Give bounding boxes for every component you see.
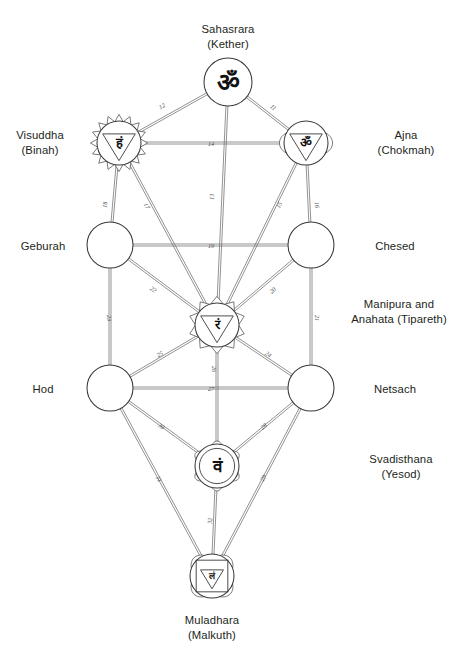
path-number-24: 24 [264,349,273,358]
lotus-petal [141,139,148,147]
path-12 [135,91,210,134]
om-bija-syllable: ॐ [300,135,312,150]
path-number-11: 11 [269,103,278,112]
node-netsach[interactable] [288,365,334,411]
node-label-geburah: Geburah [6,239,80,254]
path-number-12: 12 [157,101,166,110]
ram-bija-syllable: रं [214,317,221,332]
path-16 [306,162,311,225]
path-number-16: 16 [314,202,321,209]
node-chesed[interactable] [288,222,334,268]
path-26 [216,344,218,447]
path-24 [232,335,295,378]
diagram-canvas: ॐहंॐरंवंलं 11121314151617181920212223242… [0,0,454,662]
node-label-tipareth: Manipura and Anahata (Tipareth) [344,297,454,326]
path-13 [217,103,228,306]
path-number-22: 22 [149,284,158,293]
path-number-29: 29 [258,473,267,482]
path-number-26: 26 [211,366,218,373]
node-label-hod: Hod [6,382,80,397]
node-geburah[interactable] [87,222,133,268]
path-11 [244,94,292,132]
lotus-petal [115,165,123,172]
node-sahasrara[interactable]: ॐ [204,58,252,106]
node-label-malkuth: Muladhara (Malkuth) [147,613,277,642]
node-sphere [288,222,334,268]
path-20 [231,257,297,313]
node-label-chesed: Chesed [358,239,432,254]
node-malkuth[interactable]: लं [190,554,234,598]
path-25 [127,334,201,379]
lam-bija-syllable: लं [208,571,216,581]
node-sphere [87,222,133,268]
path-number-20: 20 [268,285,278,295]
path-number-18: 18 [101,200,109,208]
nodes-layer: ॐहंॐरंवंलं [87,58,334,598]
node-tipareth[interactable]: रं [190,296,244,353]
node-sphere [87,365,133,411]
node-hod[interactable] [87,365,133,411]
node-visuddha[interactable]: हं [90,114,147,171]
path-number-21: 21 [314,315,321,321]
node-yesod[interactable]: वं [195,441,239,491]
path-18 [111,162,119,225]
node-label-ajna: Ajna (Chokmah) [358,128,454,157]
ham-bija-syllable: हं [115,135,124,150]
path-number-25: 25 [155,349,164,358]
om-symbol: ॐ [217,68,240,97]
node-label-netsach: Netsach [358,382,432,397]
path-number-19: 19 [208,242,214,249]
path-number-14: 14 [208,140,214,147]
path-number-13: 13 [208,194,215,200]
node-label-sahasrara: Sahasrara (Kether) [163,22,293,51]
path-number-17: 17 [143,201,153,211]
path-number-23: 23 [106,315,113,321]
path-21 [310,265,312,368]
path-number-32: 32 [206,518,213,525]
node-label-visuddha: Visuddha (Binah) [0,128,80,157]
lotus-petal [115,114,123,121]
node-sphere [288,365,334,411]
tree-of-life-diagram: ॐहंॐरंवंलं 11121314151617181920212223242… [0,0,454,662]
path-17 [127,159,209,309]
lotus-petal [90,139,97,147]
path-number-27: 27 [208,385,215,392]
node-label-yesod: Svadisthana (Yesod) [348,452,454,481]
path-22 [125,256,202,314]
